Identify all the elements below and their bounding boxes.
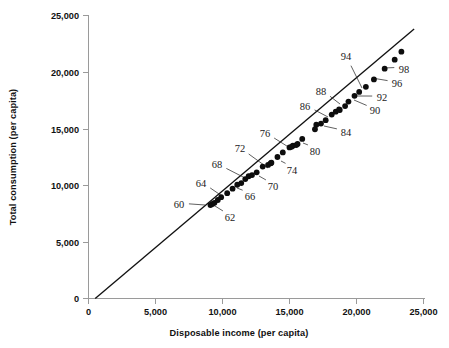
annotation-leader-line (324, 126, 337, 129)
year-label-98: 98 (399, 64, 410, 75)
data-point (218, 194, 224, 200)
x-axis-title: Disposable income (per capita) (170, 328, 309, 338)
year-label-60: 60 (174, 199, 185, 210)
y-tick-label: 15,000 (51, 125, 79, 135)
annotation-leader-line (189, 204, 205, 205)
data-point (371, 77, 377, 83)
year-label-66: 66 (245, 191, 256, 202)
x-tick-label: 15,000 (275, 307, 303, 317)
data-point (280, 150, 286, 156)
annotation-leader-line (259, 176, 266, 180)
data-point (323, 117, 329, 123)
year-label-88: 88 (316, 86, 327, 97)
y-tick-label: 0 (74, 294, 79, 304)
data-point (299, 136, 305, 142)
annotation-leader-line (281, 161, 286, 163)
data-point (356, 89, 362, 95)
data-point (337, 107, 343, 113)
annotation-leader-line (330, 96, 340, 104)
data-point (260, 164, 266, 170)
x-tick-label: 10,000 (208, 307, 236, 317)
annotation-leader-line (354, 100, 367, 105)
y-tick-label: 25,000 (51, 11, 79, 21)
annotation-leader-line (215, 206, 223, 211)
x-axis-ticks (89, 299, 424, 305)
year-label-68: 68 (212, 159, 223, 170)
data-point (254, 169, 260, 175)
data-point (318, 121, 324, 127)
annotation-leader-line (303, 143, 308, 145)
y-tick-label: 10,000 (51, 181, 79, 191)
data-point (295, 141, 301, 147)
data-point (392, 57, 398, 63)
year-label-84: 84 (341, 127, 352, 138)
data-point-group (208, 49, 405, 208)
x-axis-tick-labels: 0 5,000 10,000 15,000 20,000 25,000 (86, 307, 438, 317)
reference-line (95, 29, 414, 298)
year-label-74: 74 (287, 165, 298, 176)
scatter-chart-figure: 25,000 20,000 15,000 10,000 5,000 0 0 5,… (0, 0, 449, 348)
data-point (230, 186, 236, 192)
year-label-62: 62 (225, 212, 236, 223)
y-axis-ticks (83, 16, 89, 299)
y-tick-label: 20,000 (51, 68, 79, 78)
data-point (346, 99, 352, 105)
data-point (269, 160, 275, 166)
data-point (363, 84, 369, 90)
annotation-leader-line (237, 188, 243, 190)
year-label-92: 92 (377, 92, 388, 103)
x-tick-label: 25,000 (409, 307, 437, 317)
y-tick-label: 5,000 (56, 238, 79, 248)
data-point (352, 93, 358, 99)
data-point (312, 126, 318, 132)
data-point (224, 190, 230, 196)
chart-canvas: 25,000 20,000 15,000 10,000 5,000 0 0 5,… (0, 0, 449, 348)
year-label-70: 70 (268, 181, 279, 192)
annotation-leader-line (351, 66, 362, 88)
year-label-64: 64 (196, 178, 207, 189)
data-point (398, 49, 404, 55)
year-label-76: 76 (260, 128, 271, 139)
annotation-leader-line (315, 110, 328, 117)
x-tick-label: 5,000 (144, 307, 167, 317)
year-label-72: 72 (235, 143, 246, 154)
y-axis-title: Total consumption (per capita) (8, 89, 18, 226)
data-point (275, 154, 281, 160)
year-label-94: 94 (341, 51, 352, 62)
year-label-86: 86 (300, 101, 311, 112)
x-tick-label: 20,000 (342, 307, 370, 317)
year-label-90: 90 (370, 105, 381, 116)
year-label-80: 80 (310, 146, 321, 157)
y-axis-tick-labels: 25,000 20,000 15,000 10,000 5,000 0 (51, 11, 79, 304)
year-label-96: 96 (392, 78, 403, 89)
data-point (382, 66, 388, 72)
x-tick-label: 0 (86, 307, 91, 317)
